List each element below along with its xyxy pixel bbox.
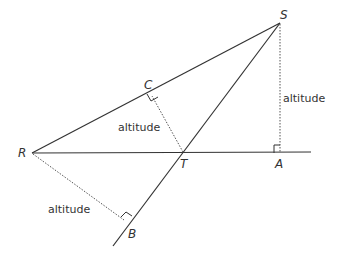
- altitude-label-SA: altitude: [283, 92, 325, 105]
- line-RA-extended: [32, 152, 311, 153]
- point-label-B: B: [128, 227, 136, 241]
- right-angle-B: [121, 212, 132, 217]
- point-label-S: S: [280, 8, 288, 22]
- line-ST-extended: [113, 23, 280, 246]
- right-angle-C: [147, 94, 158, 101]
- point-label-T: T: [180, 157, 189, 171]
- altitude-diagram: S R T A B C altitude altitude altitude: [0, 0, 337, 262]
- altitude-label-TC: altitude: [118, 121, 160, 134]
- point-label-C: C: [144, 78, 153, 92]
- diagram-canvas: S R T A B C altitude altitude altitude: [0, 0, 337, 262]
- point-label-R: R: [18, 146, 26, 160]
- altitude-label-RB: altitude: [48, 203, 90, 216]
- point-label-A: A: [274, 157, 283, 171]
